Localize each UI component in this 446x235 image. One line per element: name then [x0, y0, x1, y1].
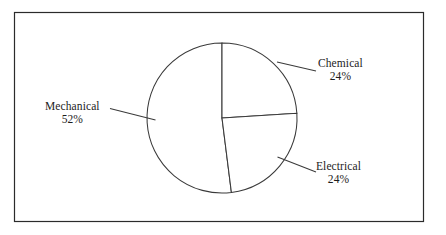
pie-label-chemical-value: 24%	[318, 70, 363, 83]
pie-label-mechanical-value: 52%	[45, 113, 100, 126]
pie-label-mechanical-name: Mechanical	[45, 100, 100, 113]
pie-label-electrical-name: Electrical	[316, 160, 361, 173]
pie-label-electrical-value: 24%	[316, 173, 361, 186]
pie-label-chemical: Chemical 24%	[318, 57, 363, 82]
pie-label-chemical-name: Chemical	[318, 57, 363, 70]
pie-label-mechanical: Mechanical 52%	[45, 100, 100, 125]
pie-label-electrical: Electrical 24%	[316, 160, 361, 185]
pie-chart-figure: Chemical 24% Mechanical 52% Electrical 2…	[0, 0, 446, 235]
